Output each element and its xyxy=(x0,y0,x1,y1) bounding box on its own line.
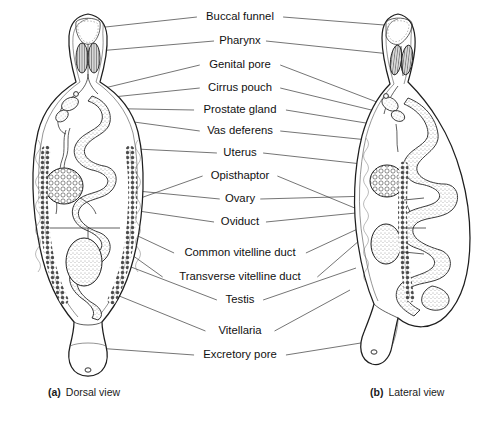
leader-right-common-vitelline-duct xyxy=(306,226,364,253)
leader-right-oviduct xyxy=(266,212,366,222)
caption-a-text: Dorsal view xyxy=(66,386,121,398)
label-genital-pore: Genital pore xyxy=(209,58,271,70)
label-opisthaptor: Opisthaptor xyxy=(211,169,270,181)
caption-layer: (a)Dorsal view(b)Lateral view xyxy=(48,386,445,398)
caption-a-letter: (a) xyxy=(48,386,61,398)
genital-pore-lateral xyxy=(384,94,389,99)
label-pharynx: Pharynx xyxy=(219,34,261,46)
testis-dorsal xyxy=(66,238,102,286)
excretory-pore-dorsal xyxy=(85,368,91,372)
caption-a: (a)Dorsal view xyxy=(48,386,121,398)
label-buccal-funnel: Buccal funnel xyxy=(206,10,274,22)
anatomy-figure: Buccal funnelPharynxGenital poreCirrus p… xyxy=(0,0,491,427)
leader-left-excretory-pore xyxy=(96,348,194,355)
leader-right-genital-pore xyxy=(280,65,382,104)
genital-pore-dorsal xyxy=(74,92,79,97)
caption-b: (b)Lateral view xyxy=(370,386,445,398)
label-oviduct: Oviduct xyxy=(221,215,260,227)
label-ovary: Ovary xyxy=(225,192,255,204)
leader-right-prostate-gland xyxy=(286,110,372,124)
label-transverse-vitelline-duct: Transverse vitelline duct xyxy=(179,270,301,282)
label-vas-deferens: Vas deferens xyxy=(207,124,273,136)
leader-right-vitellaria xyxy=(275,290,350,331)
ovary-dorsal xyxy=(45,168,83,204)
caption-b-text: Lateral view xyxy=(388,386,444,398)
leader-right-transverse-vitelline-duct xyxy=(317,240,360,277)
pharynx-dorsal xyxy=(76,43,100,74)
label-excretory-pore: Excretory pore xyxy=(203,348,276,360)
dorsal-view-organism xyxy=(33,14,143,376)
leader-right-vas-deferens xyxy=(280,131,368,140)
label-cirrus-pouch: Cirrus pouch xyxy=(208,81,272,93)
label-common-vitelline-duct: Common vitelline duct xyxy=(184,246,296,258)
leader-right-pharynx xyxy=(266,41,400,55)
label-vitellaria: Vitellaria xyxy=(218,324,262,336)
label-uterus: Uterus xyxy=(223,146,257,158)
leader-right-buccal-funnel xyxy=(283,17,397,26)
caption-b-letter: (b) xyxy=(370,386,383,398)
lateral-view-organism xyxy=(355,14,470,365)
label-prostate-gland: Prostate gland xyxy=(204,103,277,115)
testis-lateral xyxy=(371,224,401,264)
label-layer: Buccal funnelPharynxGenital poreCirrus p… xyxy=(179,10,301,360)
figure-plate: Buccal funnelPharynxGenital poreCirrus p… xyxy=(0,0,491,427)
excretory-pore-lateral xyxy=(371,350,377,354)
label-testis: Testis xyxy=(226,293,255,305)
